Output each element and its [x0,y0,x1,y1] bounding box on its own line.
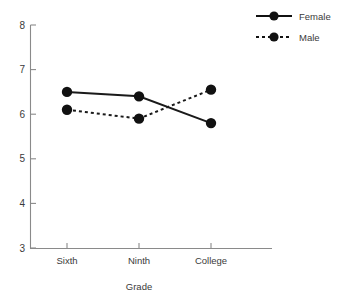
legend-marker-circle [269,32,278,41]
data-point-marker [134,113,144,123]
legend-entry-female[interactable]: Female [256,11,331,22]
y-axis-tick-labels: 8 7 6 5 4 3 [19,20,25,254]
data-point-marker [62,87,72,97]
x-tick-label-sixth: Sixth [56,255,77,266]
series-male [62,84,216,123]
x-tick-label-college: College [195,255,227,266]
x-axis-tick-labels: Sixth Ninth College [56,255,227,266]
x-axis-ticks [67,243,211,249]
x-axis-title: Grade [126,281,152,292]
y-tick-label: 4 [19,198,25,209]
data-point-marker [134,91,144,101]
legend-entry-male[interactable]: Male [256,32,320,43]
legend-label-male: Male [299,32,320,43]
y-tick-label: 5 [19,153,25,164]
male-markers [62,84,216,123]
y-tick-label: 8 [19,20,25,31]
y-tick-label: 6 [19,109,25,120]
legend-marker-circle [269,11,278,20]
data-point-marker [206,118,216,128]
axis-spines [31,25,273,249]
chart-canvas: 8 7 6 5 4 3 Sixth Ninth College Grade [0,0,342,306]
x-tick-label-ninth: Ninth [128,255,150,266]
legend: Female Male [256,11,331,43]
legend-label-female: Female [299,11,331,22]
data-point-marker [62,105,72,115]
data-point-marker [206,84,216,94]
y-tick-label: 7 [19,64,25,75]
line-chart: 8 7 6 5 4 3 Sixth Ninth College Grade [0,0,342,306]
y-axis-ticks [31,25,37,248]
y-tick-label: 3 [19,243,25,254]
